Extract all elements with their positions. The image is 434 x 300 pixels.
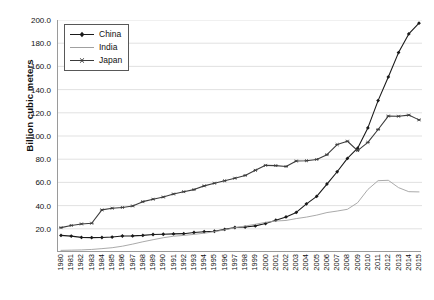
data-point-japan (386, 115, 390, 118)
data-point-china (172, 232, 176, 236)
data-point-japan (264, 164, 268, 167)
data-point-japan (161, 196, 165, 199)
data-point-china (69, 234, 73, 238)
data-point-china (284, 215, 288, 219)
data-point-china (131, 234, 135, 238)
data-point-japan (79, 222, 83, 225)
x-tick-label: 2013 (394, 254, 403, 271)
data-point-japan (243, 174, 247, 177)
y-tick-label: 160.0 (31, 62, 51, 71)
y-tick-label: 140.0 (31, 85, 51, 94)
data-point-japan (69, 224, 73, 227)
x-tick-label: 1988 (138, 254, 147, 271)
x-tick-label: 1987 (128, 254, 137, 271)
data-point-china (100, 236, 104, 240)
x-axis-tick-labels: 1980198119821983198419851986198719881989… (57, 254, 421, 300)
data-point-japan (151, 198, 155, 201)
x-tick-label: 2014 (404, 254, 413, 271)
data-point-japan (325, 153, 329, 156)
legend-label-china: China (99, 29, 121, 40)
x-tick-label: 2011 (373, 254, 382, 270)
data-point-japan (294, 160, 298, 163)
y-tick-label: 40.0 (35, 201, 51, 210)
y-tick-label: 200.0 (31, 16, 51, 25)
x-tick-label: 1999 (250, 254, 259, 271)
legend-label-india: India (99, 42, 117, 53)
data-point-japan (284, 165, 288, 168)
data-point-japan (335, 143, 339, 146)
x-tick-label: 2015 (414, 254, 423, 271)
y-axis-tick-labels: 200.0180.0160.0140.0120.0100.080.060.040… (0, 0, 55, 300)
data-point-japan (90, 222, 94, 225)
x-tick-label: 1992 (179, 254, 188, 271)
chart-legend: China India Japan (64, 24, 129, 71)
data-point-china (120, 234, 124, 238)
x-tick-label: 1980 (56, 254, 65, 271)
data-point-japan (192, 188, 196, 191)
x-tick-label: 1989 (148, 254, 157, 271)
x-tick-label: 1981 (66, 254, 75, 271)
x-tick-label: 2008 (342, 254, 351, 271)
y-tick-label: 20.0 (35, 224, 51, 233)
data-point-japan (131, 205, 135, 208)
x-tick-label: 1984 (97, 254, 106, 271)
data-point-japan (315, 158, 319, 161)
data-point-china (151, 233, 155, 237)
y-tick-label: 60.0 (35, 178, 51, 187)
data-point-japan (407, 114, 411, 117)
data-point-china (161, 232, 165, 236)
x-tick-label: 2012 (383, 254, 392, 271)
legend-swatch-india (69, 42, 95, 53)
data-point-china (90, 236, 94, 240)
data-point-china (376, 99, 380, 103)
data-point-china (80, 235, 84, 239)
x-tick-label: 2007 (332, 254, 341, 271)
data-point-china (366, 126, 370, 130)
x-tick-label: 1990 (158, 254, 167, 271)
data-point-japan (223, 179, 227, 182)
legend-swatch-japan (69, 55, 95, 66)
legend-label-japan: Japan (99, 55, 122, 66)
y-tick-label: 120.0 (31, 108, 51, 117)
data-point-japan (120, 206, 124, 209)
x-tick-label: 1995 (209, 254, 218, 271)
data-point-japan (141, 200, 145, 203)
line-chart: Billion cubic meters 200.0180.0160.0140.… (0, 0, 434, 300)
x-tick-label: 1993 (189, 254, 198, 271)
data-point-japan (304, 159, 308, 162)
x-tick-label: 1994 (199, 254, 208, 271)
x-tick-label: 2005 (312, 254, 321, 271)
data-point-japan (253, 169, 257, 172)
data-point-japan (233, 177, 237, 180)
x-tick-label: 1982 (76, 254, 85, 271)
x-tick-label: 2003 (291, 254, 300, 271)
x-tick-label: 2010 (363, 254, 372, 271)
data-point-japan (376, 128, 380, 131)
y-tick-label: 80.0 (35, 155, 51, 164)
legend-swatch-china (69, 29, 95, 40)
x-tick-label: 2002 (281, 254, 290, 271)
x-tick-label: 1991 (169, 254, 178, 271)
x-tick-label: 1986 (117, 254, 126, 271)
data-point-china (110, 235, 114, 239)
data-point-japan (274, 164, 278, 167)
x-tick-label: 1997 (230, 254, 239, 271)
data-point-japan (202, 184, 206, 187)
x-tick-label: 2006 (322, 254, 331, 271)
x-tick-label: 2009 (353, 254, 362, 271)
y-tick-label: 100.0 (31, 132, 51, 141)
data-point-japan (182, 190, 186, 193)
x-tick-label: 2001 (271, 254, 280, 271)
x-tick-label: 2004 (301, 254, 310, 271)
data-point-japan (110, 207, 114, 210)
data-point-japan (417, 118, 421, 121)
x-tick-label: 1998 (240, 254, 249, 271)
data-point-china (141, 234, 145, 238)
legend-item-china: China (69, 28, 122, 41)
x-tick-label: 1985 (107, 254, 116, 271)
legend-item-india: India (69, 41, 122, 54)
series-line-india (61, 180, 419, 250)
y-tick-label: 180.0 (31, 39, 51, 48)
x-tick-label: 1983 (87, 254, 96, 271)
data-point-japan (172, 193, 176, 196)
